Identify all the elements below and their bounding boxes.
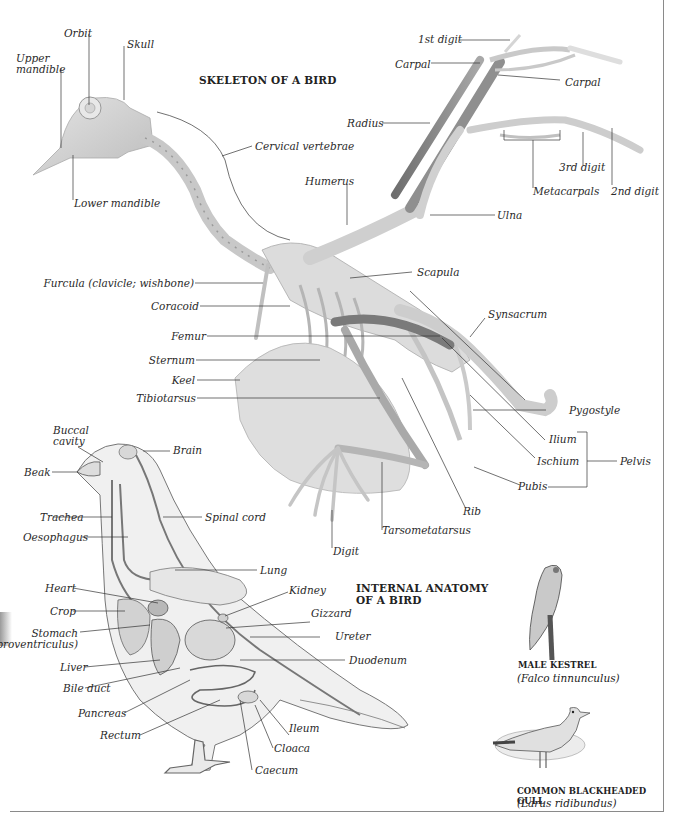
label-ulna: Ulna — [497, 209, 522, 221]
internal-title-line2: OF A BIRD — [356, 594, 421, 606]
label-duodenum: Duodenum — [349, 654, 407, 666]
label-ileum: Ileum — [289, 722, 319, 734]
skeleton-title: SKELETON OF A BIRD — [199, 74, 337, 86]
label-lower-mandible: Lower mandible — [74, 197, 160, 209]
label-keel: Keel — [100, 374, 195, 386]
label-radius: Radius — [347, 117, 384, 129]
label-coracoid: Coracoid — [100, 300, 199, 312]
label-2nd-digit: 2nd digit — [611, 185, 659, 197]
label-gizzard: Gizzard — [311, 607, 352, 619]
label-metacarpals: Metacarpals — [533, 185, 599, 197]
gull-caption-latin: (Larus ridibundus) — [517, 797, 617, 809]
label-pygostyle: Pygostyle — [569, 404, 620, 416]
book-page: SKELETON OF A BIRD Orbit Skull Upper man… — [0, 0, 676, 822]
label-humerus: Humerus — [305, 175, 354, 187]
label-carpal-right: Carpal — [565, 76, 601, 88]
label-rectum: Rectum — [100, 729, 141, 741]
label-pubis: Pubis — [518, 480, 547, 492]
label-beak: Beak — [24, 466, 51, 478]
label-trachea: Trachea — [40, 511, 83, 523]
label-lung: Lung — [260, 564, 287, 576]
label-sternum: Sternum — [100, 354, 195, 366]
label-spinal-cord: Spinal cord — [205, 511, 266, 523]
label-kidney: Kidney — [289, 584, 326, 596]
label-upper-mandible-line2: mandible — [16, 63, 65, 75]
label-1st-digit: 1st digit — [418, 33, 462, 45]
label-crop: Crop — [50, 605, 76, 617]
label-ilium: Ilium — [549, 433, 577, 445]
label-ischium: Ischium — [537, 455, 579, 467]
label-scapula: Scapula — [417, 266, 459, 278]
label-furcula: Furcula (clavicle; wishbone) — [20, 277, 194, 289]
label-pelvis: Pelvis — [620, 455, 651, 467]
label-tarsometatarsus: Tarsometatarsus — [382, 524, 471, 536]
label-3rd-digit: 3rd digit — [559, 161, 605, 173]
label-oesophagus: Oesophagus — [23, 531, 88, 543]
kestrel-illustration — [530, 565, 562, 660]
label-pancreas: Pancreas — [78, 707, 126, 719]
label-cloaca: Cloaca — [274, 742, 310, 754]
label-heart: Heart — [45, 582, 76, 594]
label-ureter: Ureter — [335, 630, 371, 642]
label-cervical-vertebrae: Cervical vertebrae — [255, 140, 354, 152]
label-rib: Rib — [463, 505, 481, 517]
label-stomach-line2: (proventriculus) — [0, 638, 78, 650]
label-bile-duct: Bile duct — [63, 682, 111, 694]
internal-title-line1: INTERNAL ANATOMY — [356, 582, 488, 594]
kestrel-caption-latin: (Falco tinnunculus) — [517, 672, 620, 684]
label-synsacrum: Synsacrum — [488, 308, 547, 320]
label-carpal-left: Carpal — [395, 58, 431, 70]
label-femur: Femur — [100, 330, 206, 342]
label-buccal-cavity-line2: cavity — [53, 435, 85, 447]
label-orbit: Orbit — [64, 27, 92, 39]
label-caecum: Caecum — [255, 764, 298, 776]
kestrel-caption-name: MALE KESTREL — [518, 660, 596, 670]
gull-illustration — [493, 708, 590, 769]
label-digit: Digit — [333, 545, 359, 557]
label-liver: Liver — [60, 661, 88, 673]
label-skull: Skull — [127, 38, 154, 50]
label-tibiotarsus: Tibiotarsus — [100, 392, 196, 404]
label-brain: Brain — [173, 444, 202, 456]
